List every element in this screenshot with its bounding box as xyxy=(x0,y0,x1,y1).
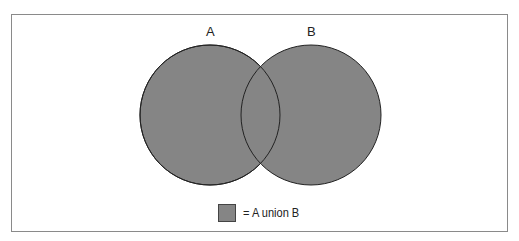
set-b-circle xyxy=(241,45,381,185)
set-b-label: B xyxy=(307,24,316,39)
legend-text: = A union B xyxy=(243,205,299,220)
set-a-label: A xyxy=(206,24,215,39)
legend-swatch xyxy=(218,204,236,222)
